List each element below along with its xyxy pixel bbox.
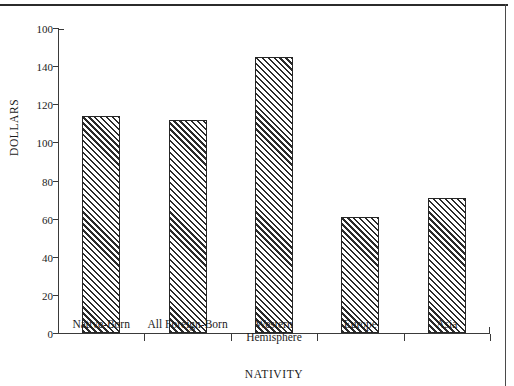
y-tick-label: 60: [42, 214, 53, 225]
y-tick-label: 20: [42, 290, 53, 301]
y-tick-label: 100: [37, 138, 54, 149]
y-tick-mark: [53, 295, 59, 296]
bar: [341, 217, 379, 333]
y-tick-label: 120: [37, 100, 54, 111]
y-tick-label: 140: [37, 62, 54, 73]
x-tick-label-line: Europe: [317, 318, 403, 331]
plot-area: 020406080100120140100: [58, 29, 490, 334]
x-tick-mark: [317, 334, 318, 341]
bar: [428, 198, 466, 333]
x-tick-label-line: Asia: [404, 318, 490, 331]
right-border-rule: [505, 4, 506, 386]
x-tick-label-line: Western: [231, 318, 317, 331]
x-tick-label-line: All Foreign-Born: [144, 318, 230, 331]
y-tick-label: 100: [37, 24, 54, 35]
figure-page: DOLLARS NATIVITY 020406080100120140100 N…: [0, 0, 514, 386]
x-tick-label-line: Hemisphere: [231, 331, 317, 344]
y-axis-title: DOLLARS: [8, 99, 20, 156]
x-tick-mark: [490, 334, 491, 341]
x-tick-label: Asia: [404, 318, 490, 331]
y-tick-mark: [53, 142, 59, 143]
y-tick-mark: [53, 28, 59, 29]
y-axis-line: [58, 29, 59, 334]
y-tick-mark: [53, 66, 59, 67]
x-tick-mark: [404, 334, 405, 341]
x-tick-label-line: Native-Born: [58, 318, 144, 331]
y-tick-label: 0: [48, 329, 54, 340]
y-tick-label: 80: [42, 176, 53, 187]
y-tick-mark: [53, 219, 59, 220]
y-tick-label: 40: [42, 252, 53, 263]
x-tick-label: All Foreign-Born: [144, 318, 230, 331]
y-tick-mark: [53, 257, 59, 258]
x-axis-title: NATIVITY: [58, 368, 490, 380]
bar: [255, 57, 293, 333]
x-tick-label: Native-Born: [58, 318, 144, 331]
x-tick-label: Europe: [317, 318, 403, 331]
x-tick-mark: [144, 334, 145, 341]
bar: [169, 120, 207, 334]
bar: [82, 116, 120, 333]
x-tick-label: WesternHemisphere: [231, 318, 317, 344]
y-tick-mark: [53, 104, 59, 105]
bar-chart-figure: DOLLARS NATIVITY 020406080100120140100 N…: [0, 6, 505, 386]
y-tick-mark: [53, 333, 59, 334]
y-tick-mark: [53, 181, 59, 182]
y-axis-top-cap: [58, 29, 64, 30]
